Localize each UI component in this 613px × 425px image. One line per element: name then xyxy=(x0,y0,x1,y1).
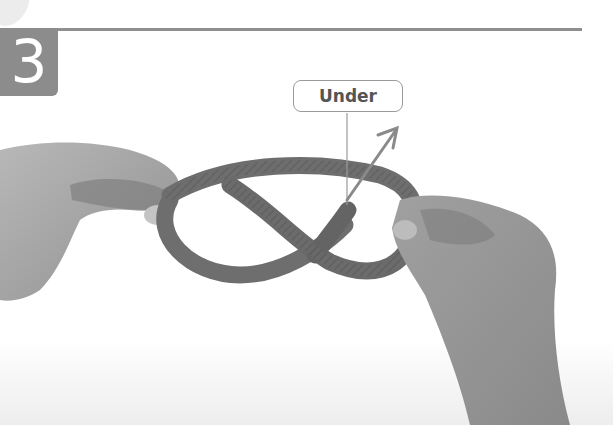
rope xyxy=(165,165,414,275)
corner-decoration xyxy=(0,0,30,26)
step-number-badge: 3 xyxy=(0,28,58,96)
header-rule xyxy=(58,28,582,31)
left-hand xyxy=(0,143,179,301)
knot-illustration xyxy=(0,96,613,425)
under-callout-label: Under xyxy=(293,80,403,112)
